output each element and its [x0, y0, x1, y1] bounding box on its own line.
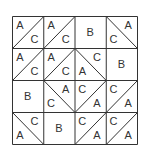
- cell-label: C: [78, 83, 86, 94]
- cell-label: C: [110, 115, 118, 126]
- cell-label: C: [62, 66, 70, 77]
- cell-label: C: [78, 115, 86, 126]
- cell-label: C: [31, 66, 39, 77]
- cell-label: B: [118, 59, 125, 70]
- cell-label: C: [62, 34, 70, 45]
- quilt-diagram: ACACBACACACCABBACCACACABCACA: [12, 16, 137, 144]
- cell-label: A: [16, 130, 23, 141]
- cell-label: B: [86, 27, 93, 38]
- cell-label: B: [55, 123, 62, 134]
- cell-label: B: [24, 91, 31, 102]
- cell-label: A: [16, 51, 23, 62]
- cell-label: A: [47, 19, 54, 30]
- cell-label: C: [31, 34, 39, 45]
- cell-label: C: [93, 51, 101, 62]
- cell-label: A: [79, 66, 86, 77]
- cell-label: A: [16, 19, 23, 30]
- cell-label: A: [125, 19, 132, 30]
- cell-label: C: [47, 98, 55, 109]
- cell-label: A: [125, 98, 132, 109]
- cell-label: C: [110, 83, 118, 94]
- cell-label: A: [93, 130, 100, 141]
- cell-label: A: [93, 98, 100, 109]
- cell-label: A: [125, 130, 132, 141]
- cell-label: A: [47, 51, 54, 62]
- cell-label: C: [31, 115, 39, 126]
- cell-label: C: [110, 34, 118, 45]
- cell-label: A: [62, 83, 69, 94]
